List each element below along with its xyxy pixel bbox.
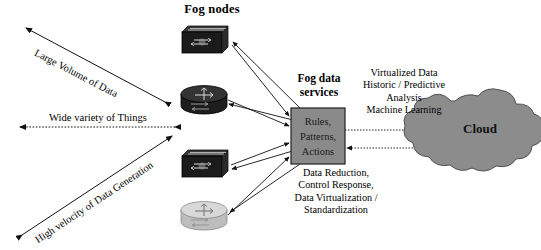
cloud-annotation-line4: Machine Learning — [345, 104, 463, 116]
box-line-actions: Actions — [293, 145, 343, 160]
box-line-patterns: Patterns, — [293, 130, 343, 145]
fog-function-line3: Data Virtualization / — [266, 192, 406, 204]
fog-function-line1: Data Reduction, — [266, 167, 406, 179]
fog-function-line2: Control Response, — [266, 179, 406, 191]
fog-node-router-2 — [181, 202, 227, 230]
cloud-label: Cloud — [432, 122, 528, 137]
fog-function-line4: Standardization — [266, 204, 406, 216]
cloud-annotation-line2: Historic / Predictive — [345, 79, 463, 91]
fog-computing-diagram: Fog nodes Fog data services Rules, Patte… — [0, 0, 541, 250]
fog-node-router-1 — [181, 86, 227, 114]
cloud-annotation-line3: Analysis — [345, 92, 463, 104]
fog-data-services-box-text: Rules, Patterns, Actions — [293, 115, 343, 159]
fog-nodes-title: Fog nodes — [172, 2, 252, 16]
box-line-rules: Rules, — [293, 115, 343, 130]
fog-node-switch-1 — [182, 26, 228, 53]
cloud-annotation-line1: Virtualized Data — [345, 67, 463, 79]
label-wide-variety-of-things: Wide variety of Things — [18, 112, 178, 123]
fog-services-functions-annotation: Data Reduction, Control Response, Data V… — [266, 167, 406, 217]
fog-node-switch-2 — [182, 150, 228, 177]
cloud-capabilities-annotation: Virtualized Data Historic / Predictive A… — [345, 67, 463, 117]
